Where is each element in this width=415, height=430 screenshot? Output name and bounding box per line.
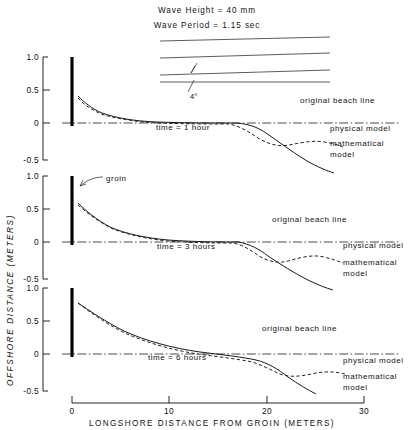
x-ticklabel-10: 10: [164, 406, 174, 416]
panel2-mathematical-model-label-line2: model: [343, 269, 368, 278]
panel2-ticklabel-0: 0: [34, 237, 39, 247]
panel3-original-beach-line-label: original beach line: [262, 324, 337, 333]
panel2-mathematical-model-label-line1: mathematical: [343, 258, 397, 267]
panel1-original-beach-line-label: original beach line: [300, 96, 375, 105]
panel-6-hours: 1.0 0.5 0 -0.5 original beach line physi…: [23, 283, 403, 396]
y-axis-title: OFFSHORE DISTANCE (METERS): [6, 214, 15, 386]
wave-angle-label: 4°: [190, 92, 197, 101]
panel1-ticklabel-1.0: 1.0: [26, 52, 39, 62]
panel1-physical-model-label: physical model: [330, 124, 391, 133]
panel1-mathematical-model-label-line1: mathematical: [330, 139, 384, 148]
x-ticklabel-30: 30: [359, 406, 369, 416]
x-ticklabel-20: 20: [262, 406, 272, 416]
panel1-y-axis-spine: [43, 57, 48, 160]
panel3-y-axis-spine: [43, 288, 48, 391]
panel2-y-axis-spine: [43, 176, 48, 279]
panel3-ticklabel--0.5: -0.5: [23, 386, 39, 396]
panel2-physical-model-curve: [78, 205, 343, 263]
panel2-ticklabel-0.5: 0.5: [26, 204, 39, 214]
figure-root: Wave Height = 40 mm Wave Period = 1.15 s…: [0, 0, 415, 430]
panel1-ticklabel-0.5: 0.5: [26, 85, 39, 95]
panel3-physical-model-label: physical model: [343, 356, 404, 365]
wave-crest-line-3: [160, 70, 330, 75]
wave-crest-line-1: [160, 37, 330, 41]
panel3-ticklabel-0.5: 0.5: [26, 316, 39, 326]
panel-3-hours: 1.0 0.5 0 -0.5 groin original beach line…: [23, 171, 403, 290]
panel2-time-label: time = 3 hours: [157, 242, 216, 251]
panel1-time-label: time = 1 hour: [156, 123, 210, 132]
panel2-physical-model-label: physical model: [343, 241, 404, 250]
panel3-ticklabel-0: 0: [34, 349, 39, 359]
panel1-mathematical-model-label-line2: model: [330, 150, 355, 159]
figure-canvas: Wave Height = 40 mm Wave Period = 1.15 s…: [0, 0, 415, 430]
wave-crest-diagram: 4°: [160, 37, 330, 101]
panel3-ticklabel-1.0: 1.0: [26, 283, 39, 293]
panel1-mathematical-model-curve: [78, 96, 334, 173]
panel3-mathematical-model-label-line2: model: [343, 383, 368, 392]
wave-height-label: Wave Height = 40 mm: [158, 6, 256, 15]
panel-1-hour: 1.0 0.5 0 -0.5 original beach line physi…: [23, 52, 400, 173]
panel3-mathematical-model-curve: [78, 303, 316, 394]
panel3-time-label: time = 6 hours: [148, 353, 207, 362]
panel1-ticklabel--0.5: -0.5: [23, 155, 39, 165]
x-axis: 0 10 20 30 LONGSHORE DISTANCE FROM GROIN…: [70, 396, 369, 428]
wave-direction-arrowhead: [191, 66, 195, 73]
panel2-original-beach-line-label: original beach line: [272, 215, 347, 224]
x-ticklabel-0: 0: [70, 406, 75, 416]
wave-period-label: Wave Period = 1.15 sec: [154, 21, 261, 30]
panel3-mathematical-model-label-line1: mathematical: [343, 372, 397, 381]
x-axis-title: LONGSHORE DISTANCE FROM GROIN (METERS): [89, 419, 335, 428]
panel2-groin-label: groin: [106, 174, 127, 183]
x-axis-spine: [72, 396, 364, 403]
panel2-ticklabel-1.0: 1.0: [26, 171, 39, 181]
panel1-ticklabel-0: 0: [34, 118, 39, 128]
panel3-physical-model-curve: [78, 303, 345, 376]
wave-crest-line-2: [160, 53, 330, 58]
